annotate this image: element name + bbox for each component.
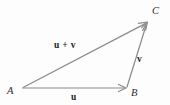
vector-u bbox=[23, 84, 127, 91]
vector-diagram: A B C u v u + v bbox=[0, 0, 170, 105]
vector-label-u-plus-v: u + v bbox=[54, 40, 76, 50]
vector-label-u: u bbox=[71, 92, 77, 102]
vector-u-plus-v bbox=[24, 22, 148, 87]
vector-u-plus-v-shaft bbox=[24, 24, 146, 88]
vertex-label-a: A bbox=[6, 85, 14, 96]
vector-label-v: v bbox=[137, 54, 142, 64]
vector-canvas: A B C u v u + v bbox=[0, 0, 170, 105]
vertex-label-c: C bbox=[152, 5, 160, 16]
vertex-label-b: B bbox=[131, 87, 138, 98]
